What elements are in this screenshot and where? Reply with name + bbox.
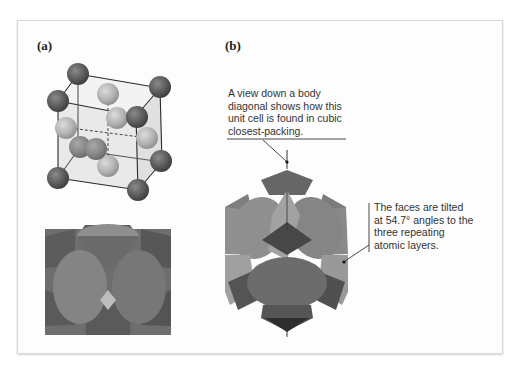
callout-line: The faces are tilted (374, 201, 473, 214)
fcc-unit-cell-space-filling (45, 224, 171, 335)
callout-dot (342, 260, 345, 263)
diagram-graphics (0, 0, 512, 369)
callout-line: three repeating (374, 226, 473, 239)
callout-line: unit cell is found in cubic (228, 112, 342, 125)
callout-line: diagonal shows how this (228, 100, 342, 113)
callout-line: atomic layers. (374, 239, 473, 252)
callout-faces-tilted: The faces are tilted at 54.7° angles to … (374, 201, 473, 251)
callout-line: closest-packing. (228, 125, 342, 138)
callout-line: at 54.7° angles to the (374, 214, 473, 227)
body-diagonal-view (221, 150, 352, 337)
callout-body-diagonal: A view down a body diagonal shows how th… (228, 87, 342, 137)
callout-line: A view down a body (228, 87, 342, 100)
fcc-unit-cell-ball-stick (47, 63, 172, 201)
